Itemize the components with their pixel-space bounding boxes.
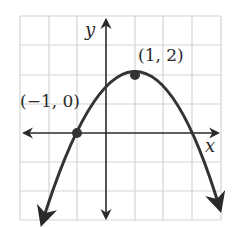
y-axis-label: y — [84, 19, 96, 40]
point-label-1-2: (1, 2) — [138, 45, 184, 65]
point-neg1-0 — [72, 128, 82, 138]
parabola-graph: y x (−1, 0) (1, 2) — [0, 0, 239, 227]
x-axis-label: x — [205, 135, 215, 156]
point-1-2 — [130, 70, 140, 80]
point-label-neg1-0: (−1, 0) — [20, 91, 80, 111]
grid — [20, 16, 221, 220]
